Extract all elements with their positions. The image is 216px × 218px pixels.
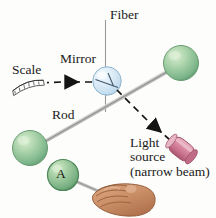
- label-mirror: Mirror: [60, 52, 96, 66]
- scale-strip: [12, 79, 45, 96]
- label-light-source-line3: (narrow beam): [130, 165, 210, 179]
- sphere-bottom-left: [13, 131, 48, 166]
- label-light-source: Light source (narrow beam): [130, 136, 210, 179]
- label-light-source-line1: Light: [130, 136, 210, 150]
- diagram-canvas: [0, 0, 216, 218]
- label-light-source-line2: source: [130, 150, 210, 164]
- label-rod: Rod: [52, 108, 75, 122]
- label-scale: Scale: [12, 63, 41, 77]
- label-sphere-a: A: [56, 167, 66, 181]
- beam-reflected-to-scale: [47, 82, 92, 83]
- physics-diagram-cavendish-balance: Fiber Mirror Scale Rod Light source (nar…: [0, 0, 216, 218]
- label-fiber: Fiber: [110, 8, 139, 22]
- hand-graphic: [92, 184, 155, 216]
- sphere-top-right: [164, 46, 199, 81]
